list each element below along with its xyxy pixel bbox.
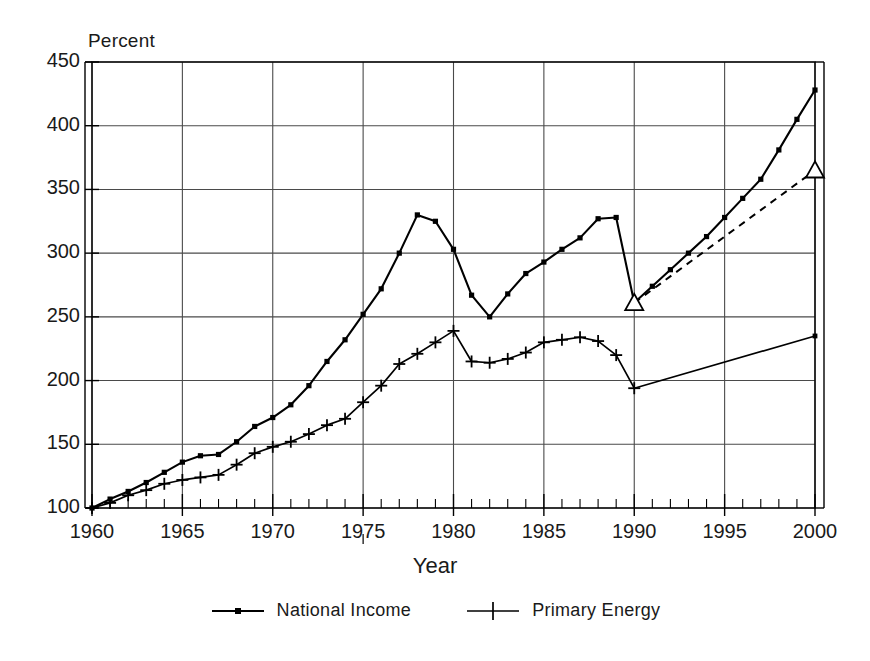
chart-figure: Percent 100150200250300350400450 1960196…: [0, 0, 870, 661]
data-point-national-income: [252, 424, 257, 429]
data-point-primary-energy: [484, 357, 496, 369]
axis-frame: [85, 62, 824, 508]
data-point-primary-energy: [122, 489, 134, 501]
chart-legend: National Income Primary Energy: [0, 600, 870, 621]
data-point-national-income: [596, 216, 601, 221]
x-tick-label: 1970: [228, 520, 318, 543]
data-point-primary-energy: [231, 459, 243, 471]
y-tick-label: 300: [14, 240, 80, 263]
y-tick-label: 350: [14, 176, 80, 199]
x-tick-label: 1960: [47, 520, 137, 543]
data-point-national-income: [379, 286, 384, 291]
legend-marker-plus: [465, 602, 521, 620]
x-tick-label: 1965: [137, 520, 227, 543]
data-point-primary-energy: [502, 353, 514, 365]
data-point-national-income: [505, 291, 510, 296]
data-point-national-income: [234, 439, 239, 444]
data-point-primary-energy: [249, 447, 261, 459]
data-point-primary-energy: [321, 419, 333, 431]
data-point-national-income: [577, 235, 582, 240]
data-point-primary-energy: [574, 331, 586, 343]
x-tick-label: 1975: [318, 520, 408, 543]
grid-layer: [92, 62, 815, 508]
legend-marker-square-dot: [210, 602, 266, 620]
data-point-primary-energy: [176, 474, 188, 486]
data-point-primary-energy: [411, 348, 423, 360]
data-point-national-income: [270, 415, 275, 420]
data-point-primary-energy: [285, 436, 297, 448]
triangle-marker: [806, 161, 824, 177]
data-point-national-income: [668, 267, 673, 272]
data-point-primary-energy: [104, 497, 116, 509]
data-point-national-income: [397, 251, 402, 256]
data-point-primary-energy: [556, 334, 568, 346]
data-point-primary-energy-2000: [813, 334, 818, 339]
data-point-national-income: [722, 215, 727, 220]
data-point-primary-energy: [448, 325, 460, 337]
series-primary-energy-post1990: [634, 334, 817, 389]
data-point-national-income: [198, 453, 203, 458]
data-point-primary-energy: [140, 484, 152, 496]
data-point-national-income: [361, 312, 366, 317]
data-point-primary-energy: [213, 469, 225, 481]
x-axis-title: Year: [0, 553, 870, 579]
data-point-national-income: [324, 359, 329, 364]
legend-entry-primary-energy: Primary Energy: [465, 600, 660, 621]
data-point-national-income: [469, 293, 474, 298]
data-point-national-income: [650, 284, 655, 289]
data-point-primary-energy: [194, 471, 206, 483]
data-point-national-income: [704, 234, 709, 239]
data-point-primary-energy: [86, 502, 98, 514]
data-point-primary-energy: [267, 441, 279, 453]
x-tick-label: 2000: [770, 520, 860, 543]
legend-entry-national-income: National Income: [210, 600, 412, 621]
data-point-national-income: [758, 177, 763, 182]
data-point-national-income: [162, 470, 167, 475]
data-point-primary-energy: [303, 428, 315, 440]
data-point-national-income: [686, 251, 691, 256]
data-point-national-income: [487, 314, 492, 319]
data-series-layer: [86, 87, 818, 514]
data-point-national-income: [812, 87, 817, 92]
data-point-national-income: [216, 452, 221, 457]
data-point-national-income: [180, 460, 185, 465]
legend-label-national-income: National Income: [277, 600, 412, 621]
data-point-national-income: [415, 212, 420, 217]
data-point-primary-energy: [538, 336, 550, 348]
data-point-primary-energy: [520, 347, 532, 359]
y-tick-label: 200: [14, 368, 80, 391]
data-point-national-income: [288, 402, 293, 407]
x-tick-label: 1990: [589, 520, 679, 543]
y-tick-label: 250: [14, 304, 80, 327]
data-point-national-income: [794, 117, 799, 122]
data-point-national-income: [451, 247, 456, 252]
x-tick-label: 1985: [499, 520, 589, 543]
data-point-national-income: [523, 271, 528, 276]
y-tick-label: 450: [14, 49, 80, 72]
data-point-national-income: [740, 196, 745, 201]
data-point-national-income: [306, 383, 311, 388]
data-point-primary-energy: [466, 355, 478, 367]
data-point-national-income: [433, 219, 438, 224]
data-point-national-income: [541, 259, 546, 264]
data-point-national-income: [559, 247, 564, 252]
y-tick-label: 100: [14, 495, 80, 518]
data-point-primary-energy: [429, 336, 441, 348]
x-tick-label: 1995: [680, 520, 770, 543]
data-point-national-income: [776, 147, 781, 152]
data-point-national-income: [614, 215, 619, 220]
data-point-national-income: [342, 337, 347, 342]
x-tick-label: 1980: [409, 520, 499, 543]
legend-label-primary-energy: Primary Energy: [532, 600, 660, 621]
data-point-primary-energy: [158, 478, 170, 490]
series-national-income-post1990: [634, 87, 817, 302]
y-tick-label: 150: [14, 431, 80, 454]
y-tick-label: 400: [14, 113, 80, 136]
axis-ticks: [85, 62, 815, 544]
series-national-income: [89, 212, 634, 510]
